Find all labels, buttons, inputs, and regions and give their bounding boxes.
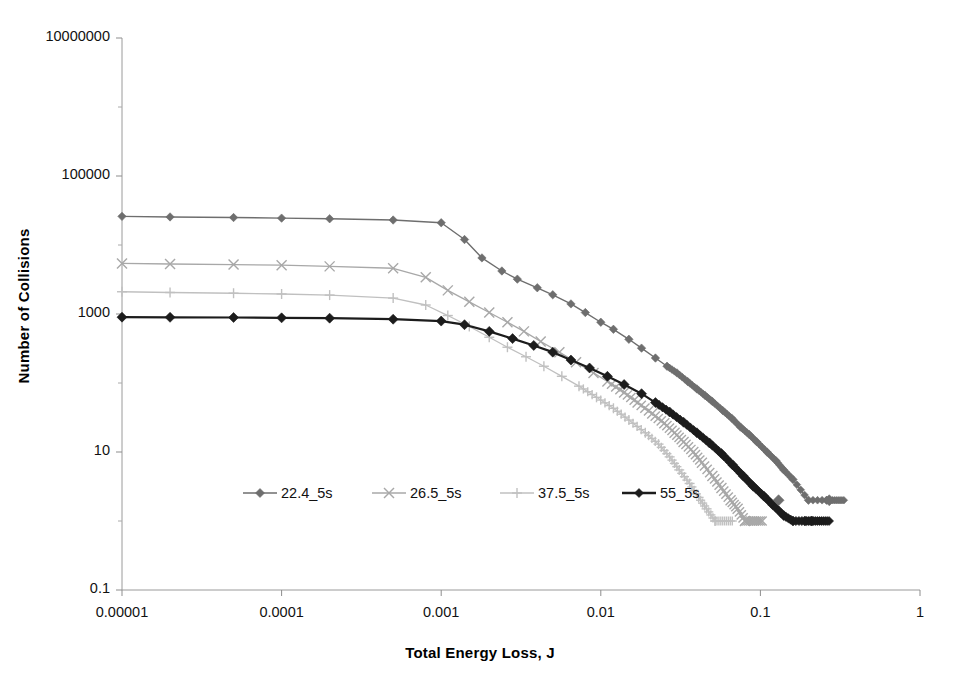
y-tick-label: 10000000 <box>0 28 110 44</box>
legend-item-37.5_5s[interactable]: 37.5_5s <box>500 485 590 501</box>
series-22.4_5s <box>118 212 848 504</box>
y-tick-label: 1000 <box>0 304 110 320</box>
x-tick-label: 0.01 <box>541 604 661 620</box>
data-series-layer <box>117 212 848 526</box>
legend-item-label: 55_5s <box>660 485 700 501</box>
x-tick-label: 1 <box>860 604 970 620</box>
x-tick-label: 0.1 <box>700 604 820 620</box>
x-tick-label: 0.00001 <box>62 604 182 620</box>
legend-item-22.4_5s[interactable]: 22.4_5s <box>243 485 333 501</box>
outlier-point <box>824 495 835 506</box>
chart-legend: 22.4_5s26.5_5s37.5_5s55_5s <box>243 485 700 501</box>
chart-container: 22.4_5s26.5_5s37.5_5s55_5s Number of Col… <box>0 0 970 679</box>
legend-item-label: 26.5_5s <box>410 485 462 501</box>
legend-item-label: 22.4_5s <box>281 485 333 501</box>
y-tick-label: 0.1 <box>0 580 110 596</box>
x-tick-label: 0.0001 <box>222 604 342 620</box>
y-tick-label: 100000 <box>0 166 110 182</box>
chart-plot-area: 22.4_5s26.5_5s37.5_5s55_5s <box>0 0 970 679</box>
y-tick-label: 10 <box>0 442 110 458</box>
legend-item-55_5s[interactable]: 55_5s <box>622 485 700 501</box>
legend-item-label: 37.5_5s <box>538 485 590 501</box>
axis-lines <box>122 38 920 590</box>
x-tick-label: 0.001 <box>381 604 501 620</box>
x-axis-title: Total Energy Loss, J <box>330 644 630 661</box>
legend-item-26.5_5s[interactable]: 26.5_5s <box>372 485 462 501</box>
